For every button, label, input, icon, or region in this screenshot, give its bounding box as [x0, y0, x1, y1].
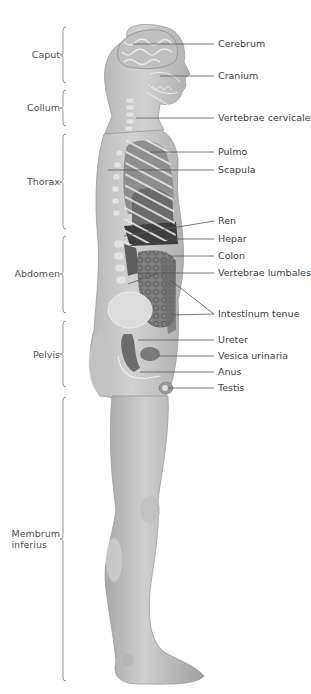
- label-intestinum-tenue: Intestinum tenue: [218, 308, 299, 319]
- brace-membrum-inferius: [60, 397, 66, 681]
- label-scapula: Scapula: [218, 164, 256, 175]
- label-vertebrae-lumbales: Vertebrae lumbales: [218, 267, 311, 278]
- region-label-pelvis: Pelvis: [33, 349, 60, 360]
- brace-collum: [60, 90, 66, 126]
- label-cerebrum: Cerebrum: [218, 38, 265, 49]
- thorax-organs-illustration: [123, 139, 178, 246]
- label-vesica-urinaria: Vesica urinaria: [218, 350, 288, 361]
- label-colon: Colon: [218, 250, 245, 261]
- brace-thorax: [60, 134, 66, 229]
- brace-pelvis: [60, 321, 66, 387]
- anatomy-diagram: Caput Collum Thorax Abdomen Pelvis Membr…: [0, 0, 311, 694]
- label-ren: Ren: [218, 215, 236, 226]
- brace-caput: [60, 27, 66, 83]
- region-braces: [60, 27, 66, 681]
- region-label-abdomen: Abdomen: [15, 268, 61, 279]
- label-ureter: Ureter: [218, 334, 248, 345]
- region-label-thorax: Thorax: [27, 176, 60, 187]
- region-label-caput: Caput: [32, 49, 60, 60]
- brace-abdomen: [60, 236, 66, 313]
- label-vertebrae-cervicales: Vertebrae cervicales: [218, 112, 311, 123]
- label-hepar: Hepar: [218, 233, 247, 244]
- region-label-collum: Collum: [27, 102, 60, 113]
- region-label-membrum-inferius: Membrum inferius: [11, 528, 60, 550]
- label-anus: Anus: [218, 366, 242, 377]
- label-cranium: Cranium: [218, 70, 258, 81]
- label-testis: Testis: [218, 382, 244, 393]
- label-pulmo: Pulmo: [218, 146, 247, 157]
